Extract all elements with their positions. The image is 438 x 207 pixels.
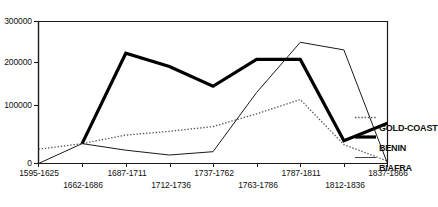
y-tick-label-300000: 300000 — [0, 17, 32, 26]
y-tick-label-200000: 200000 — [0, 58, 32, 67]
x-tick-label-1763-1786: 1763-1786 — [226, 181, 290, 190]
x-tick-label-1737-1762: 1737-1762 — [182, 169, 246, 178]
x-tick-label-1712-1736: 1712-1736 — [139, 181, 203, 190]
legend-label-gold-coast: GOLD-COAST — [379, 123, 438, 133]
x-tick-label-1595-1625: 1595-1625 — [7, 169, 71, 178]
series-line-biafra — [39, 42, 388, 163]
legend-swatches — [355, 118, 376, 158]
y-tick-label-0: 0 — [0, 159, 32, 168]
x-tick-label-1812-1836: 1812-1836 — [313, 181, 377, 190]
legend-label-benin: BENIN — [379, 143, 406, 153]
chart-series-layer — [39, 42, 388, 163]
x-tick-label-1787-1811: 1787-1811 — [269, 169, 333, 178]
legend-label-biafra: BIAFRA — [379, 163, 412, 173]
y-tick-label-100000: 100000 — [0, 101, 32, 110]
x-tick-label-1687-1711: 1687-1711 — [95, 169, 159, 178]
x-tick-label-1662-1686: 1662-1686 — [51, 181, 115, 190]
y-axis-ticks — [34, 22, 38, 164]
series-line-benin — [82, 53, 387, 143]
